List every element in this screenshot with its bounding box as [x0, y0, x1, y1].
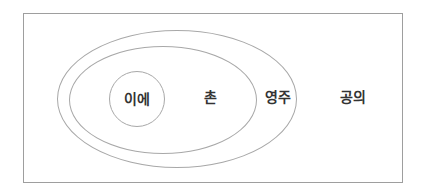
label-gongui: 공의 — [340, 90, 367, 104]
label-ie: 이에 — [124, 92, 151, 106]
nested-sets-diagram: 이에 촌 영주 공의 — [0, 0, 426, 195]
label-yeongju: 영주 — [265, 90, 292, 104]
label-chon: 촌 — [204, 90, 218, 104]
